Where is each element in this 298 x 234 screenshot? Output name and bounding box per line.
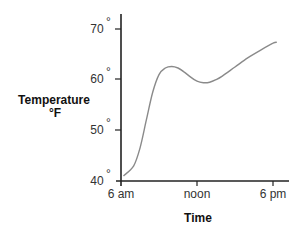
y-tick-label-50: 50 [90,123,104,137]
y-axis-unit: °F [49,106,61,120]
x-axis-title: Time [184,211,212,225]
y-degree-70: ° [106,15,111,29]
y-tick-label-70: 70 [90,22,104,36]
y-degree-40: ° [106,167,111,181]
x-tick-label-6pm: 6 pm [260,187,287,201]
y-tick-label-60: 60 [90,72,104,86]
x-tick-label-6am: 6 am [108,187,135,201]
temperature-chart: 70 ° 60 ° 50 ° 40 ° 6 am noon 6 pm Tempe… [0,0,298,234]
y-degree-50: ° [106,116,111,130]
temperature-line [124,42,277,176]
y-axis-title: Temperature [18,93,90,107]
y-tick-label-40: 40 [90,174,104,188]
y-degree-60: ° [106,65,111,79]
x-tick-label-noon: noon [184,187,211,201]
